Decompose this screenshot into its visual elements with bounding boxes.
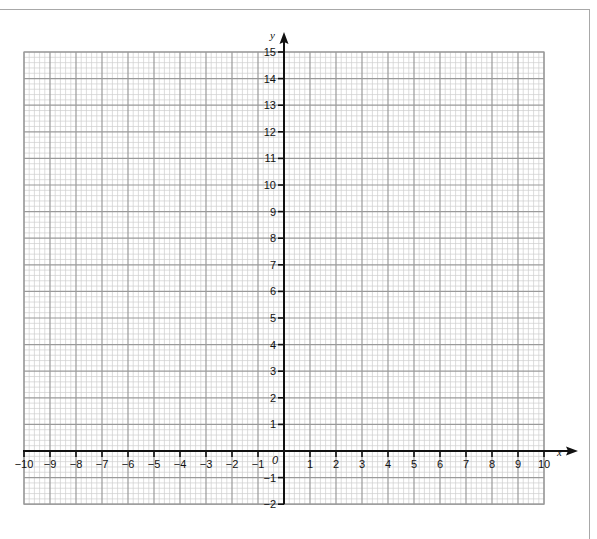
x-tick-label: −10: [15, 458, 34, 470]
y-tick-label: 2: [270, 392, 276, 404]
y-tick-label: 1: [270, 418, 276, 430]
y-tick-label: 7: [270, 259, 276, 271]
x-tick-label: 7: [463, 458, 469, 470]
y-tick-label: 9: [270, 206, 276, 218]
x-tick-label: 5: [411, 458, 417, 470]
y-tick-label: 5: [270, 312, 276, 324]
y-tick-label: −2: [263, 498, 276, 510]
coordinate-grid-chart: −10−9−8−7−6−5−4−3−2−112345678910 −2−1123…: [0, 0, 597, 539]
y-tick-label: 14: [264, 73, 276, 85]
x-tick-label: −2: [226, 458, 239, 470]
x-tick-label: 9: [515, 458, 521, 470]
y-tick-label: 10: [264, 179, 276, 191]
y-axis-label: y: [269, 29, 275, 41]
x-tick-label: 6: [437, 458, 443, 470]
axes: [23, 32, 578, 504]
origin-label: 0: [272, 454, 279, 466]
y-tick-label: 6: [270, 285, 276, 297]
y-tick-label: 13: [264, 99, 276, 111]
x-tick-label: 4: [385, 458, 391, 470]
x-tick-label: −5: [148, 458, 161, 470]
x-axis-label: x: [556, 446, 562, 458]
x-tick-label: −7: [96, 458, 109, 470]
x-tick-label: 1: [307, 458, 313, 470]
y-tick-label: −1: [263, 472, 276, 484]
x-tick-label: 2: [333, 458, 339, 470]
y-tick-label: 4: [270, 339, 276, 351]
x-tick-label: −1: [252, 458, 265, 470]
x-tick-label: 3: [359, 458, 365, 470]
y-tick-label: 3: [270, 365, 276, 377]
y-tick-label: 8: [270, 232, 276, 244]
y-tick-label: 12: [264, 126, 276, 138]
x-tick-label: −9: [44, 458, 57, 470]
x-tick-label: 8: [489, 458, 495, 470]
x-tick-label: −6: [122, 458, 135, 470]
x-tick-label: 10: [538, 458, 550, 470]
y-tick-label: 11: [265, 152, 276, 164]
x-tick-label: −3: [200, 458, 213, 470]
x-tick-label: −4: [174, 458, 187, 470]
y-tick-label: 15: [264, 46, 276, 58]
x-tick-label: −8: [70, 458, 83, 470]
